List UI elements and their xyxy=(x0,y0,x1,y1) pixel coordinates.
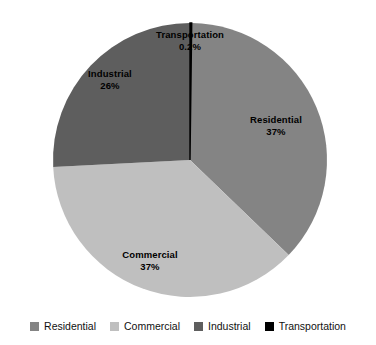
pie-svg xyxy=(0,0,376,307)
legend-label: Residential xyxy=(44,320,96,332)
legend-swatch-transportation-icon xyxy=(265,322,274,331)
legend-item-industrial[interactable]: Industrial xyxy=(194,320,251,332)
legend-item-commercial[interactable]: Commercial xyxy=(110,320,180,332)
legend-swatch-commercial-icon xyxy=(110,322,119,331)
pie-chart: Transportation 0.2% Industrial 26% Resid… xyxy=(0,0,376,345)
legend-label: Commercial xyxy=(124,320,180,332)
pie-plot-area: Transportation 0.2% Industrial 26% Resid… xyxy=(0,0,376,307)
pie-slice-group xyxy=(53,23,327,297)
legend-label: Transportation xyxy=(279,320,346,332)
legend-item-residential[interactable]: Residential xyxy=(30,320,96,332)
legend-swatch-residential-icon xyxy=(30,322,39,331)
pie-slice-industrial[interactable] xyxy=(53,23,190,167)
legend-label: Industrial xyxy=(208,320,251,332)
chart-legend: ResidentialCommercialIndustrialTransport… xyxy=(0,313,376,339)
legend-item-transportation[interactable]: Transportation xyxy=(265,320,346,332)
legend-swatch-industrial-icon xyxy=(194,322,203,331)
